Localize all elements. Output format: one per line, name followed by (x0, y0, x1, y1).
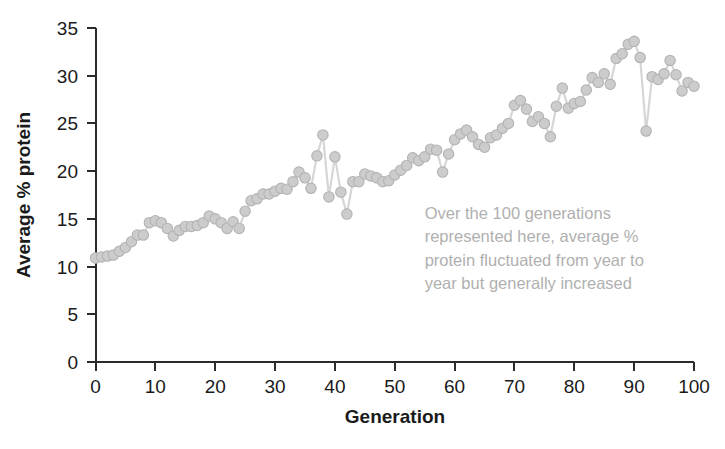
data-point-marker (479, 142, 489, 152)
annotation-line: year but generally increased (425, 274, 632, 292)
data-point-marker (605, 79, 615, 89)
y-tick-label: 30 (57, 66, 78, 87)
data-point-marker (431, 145, 441, 155)
average-protein-per-generation-chart: 05101520253035 Average % protein 0102030… (0, 0, 725, 449)
chart-annotation: Over the 100 generationsrepresented here… (425, 204, 644, 293)
x-axis-ticks (96, 362, 695, 371)
data-point-marker (581, 85, 591, 95)
data-point-marker (318, 130, 328, 140)
x-tick-label: 40 (324, 376, 345, 397)
y-tick-label: 20 (57, 161, 78, 182)
x-tick-label: 50 (384, 376, 405, 397)
x-tick-label: 20 (205, 376, 226, 397)
y-axis-title: Average % protein (13, 112, 34, 278)
data-point-marker (575, 96, 585, 106)
data-point-marker (539, 118, 549, 128)
data-point-marker (629, 36, 639, 46)
x-axis-group: 0102030405060708090100 Generation (90, 362, 710, 427)
annotation-line: protein fluctuated from year to (425, 251, 644, 269)
data-point-marker (443, 149, 453, 159)
data-point-marker (557, 83, 567, 93)
y-tick-label: 15 (57, 209, 78, 230)
data-point-marker (437, 167, 447, 177)
data-point-marker (336, 187, 346, 197)
data-point-marker (665, 55, 675, 65)
x-axis-title: Generation (345, 406, 445, 427)
data-point-marker (617, 49, 627, 59)
data-point-marker (635, 52, 645, 62)
data-point-marker (671, 70, 681, 80)
y-tick-label: 0 (67, 352, 78, 373)
y-axis-group: 05101520253035 Average % protein (13, 18, 96, 373)
y-tick-label: 5 (67, 304, 78, 325)
data-point-marker (689, 81, 699, 91)
data-point-marker (641, 126, 651, 136)
data-point-marker (324, 192, 334, 202)
x-tick-label: 100 (678, 376, 710, 397)
x-axis-tick-labels: 0102030405060708090100 (90, 376, 710, 397)
data-point-marker (138, 230, 148, 240)
chart-figure: 05101520253035 Average % protein 0102030… (0, 0, 725, 449)
y-tick-label: 10 (57, 257, 78, 278)
x-tick-label: 0 (90, 376, 101, 397)
data-point-marker (240, 206, 250, 216)
x-tick-label: 10 (145, 376, 166, 397)
data-point-marker (288, 176, 298, 186)
data-point-marker (599, 69, 609, 79)
data-point-marker (503, 118, 513, 128)
y-tick-label: 35 (57, 18, 78, 39)
y-tick-label: 25 (57, 113, 78, 134)
x-tick-label: 80 (564, 376, 585, 397)
data-point-marker (342, 209, 352, 219)
x-tick-label: 60 (444, 376, 465, 397)
x-tick-label: 90 (624, 376, 645, 397)
y-axis-ticks (87, 28, 96, 362)
data-point-marker (312, 151, 322, 161)
data-point-marker (300, 173, 310, 183)
data-point-marker (234, 223, 244, 233)
x-tick-label: 70 (504, 376, 525, 397)
y-axis-tick-labels: 05101520253035 (57, 18, 78, 373)
data-point-marker (551, 101, 561, 111)
data-point-marker (306, 183, 316, 193)
annotation-line: represented here, average % (425, 227, 639, 245)
data-point-marker (330, 152, 340, 162)
data-point-marker (521, 104, 531, 114)
data-point-marker (545, 132, 555, 142)
data-point-marker (659, 69, 669, 79)
annotation-line: Over the 100 generations (425, 204, 611, 222)
x-tick-label: 30 (264, 376, 285, 397)
